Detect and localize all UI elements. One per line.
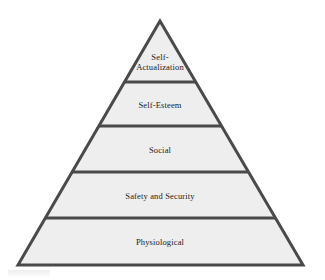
pyramid-diagram: Self- Actualization Self-Esteem Social S… [0,0,325,280]
pyramid-outline [18,21,303,265]
pyramid-graphic [0,0,325,280]
caption-artifact [8,270,50,277]
